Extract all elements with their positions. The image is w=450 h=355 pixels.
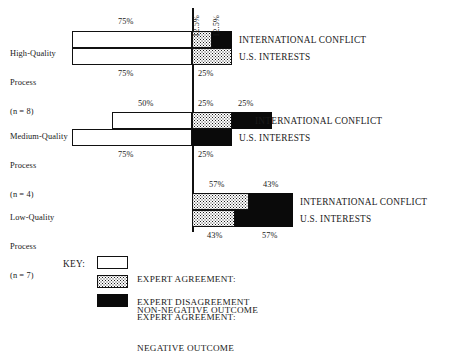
segment-disagreement	[192, 112, 232, 129]
bar-low-international-conflict	[192, 193, 293, 210]
pct-high-top-negative: 12.5%	[212, 15, 221, 37]
pct-medium-top-mid: 25%	[198, 99, 214, 108]
group-label-medium-quality-line1: Medium-Quality	[10, 132, 68, 142]
segment-disagreement	[192, 48, 232, 65]
group-label-high-quality-line2: Process	[10, 78, 56, 88]
segment-negative	[249, 193, 293, 210]
group-label-low-quality-line2: Process	[10, 242, 54, 252]
pct-medium-top-left: 50%	[138, 99, 154, 108]
pct-medium-top-right: 25%	[238, 99, 254, 108]
legend-label-negative-line2: NEGATIVE OUTCOME	[137, 343, 236, 353]
pct-high-bottom-left: 75%	[118, 69, 134, 78]
group-label-high-quality-line1: High-Quality	[10, 49, 56, 59]
pct-low-top-left: 57%	[209, 180, 225, 189]
segment-disagreement	[192, 193, 249, 210]
segment-non-negative	[112, 112, 192, 129]
pct-medium-bottom-left: 75%	[118, 150, 134, 159]
pct-low-top-right: 43%	[263, 180, 279, 189]
bar-medium-international-conflict	[112, 112, 272, 129]
series-name-high-international-conflict: INTERNATIONAL CONFLICT	[239, 35, 366, 45]
series-name-high-us-interests: U.S. INTERESTS	[239, 52, 310, 62]
segment-non-negative	[72, 129, 192, 146]
group-label-low-quality-line3: (n = 7)	[10, 271, 54, 281]
segment-disagreement	[192, 210, 235, 227]
segment-negative	[192, 129, 232, 146]
bar-medium-us-interests	[72, 129, 232, 146]
segment-negative	[235, 210, 293, 227]
series-name-medium-us-interests: U.S. INTERESTS	[239, 133, 310, 143]
bar-high-international-conflict	[72, 31, 232, 48]
group-label-low-quality-line1: Low-Quality	[10, 213, 54, 223]
legend-title: KEY:	[63, 259, 85, 269]
legend-label-negative-line1: EXPERT AGREEMENT:	[137, 312, 236, 322]
legend-swatch-negative	[97, 294, 128, 307]
series-name-low-us-interests: U.S. INTERESTS	[300, 214, 371, 224]
segment-non-negative	[72, 31, 192, 48]
legend-swatch-non-negative	[97, 256, 128, 269]
pct-low-bottom-left: 43%	[207, 231, 223, 240]
segment-non-negative	[72, 48, 192, 65]
pct-high-top-left: 75%	[118, 17, 134, 26]
bar-low-us-interests	[192, 210, 293, 227]
bar-high-us-interests	[72, 48, 232, 65]
legend-label-negative: EXPERT AGREEMENT: NEGATIVE OUTCOME	[137, 291, 236, 355]
pct-high-top-disagreement: 12.5%	[192, 15, 201, 37]
pct-low-bottom-right: 57%	[262, 231, 278, 240]
pct-high-bottom-right: 25%	[198, 69, 214, 78]
group-label-medium-quality-line2: Process	[10, 161, 68, 171]
legend-swatch-disagreement	[97, 275, 128, 288]
series-name-low-international-conflict: INTERNATIONAL CONFLICT	[300, 197, 427, 207]
pct-medium-bottom-right: 25%	[198, 150, 214, 159]
group-label-low-quality: Low-Quality Process (n = 7)	[10, 194, 54, 300]
series-name-medium-international-conflict: INTERNATIONAL CONFLICT	[255, 116, 382, 126]
